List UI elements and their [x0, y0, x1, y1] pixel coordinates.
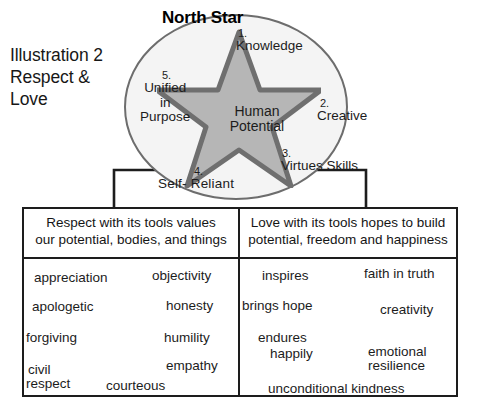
respect-panel-body: appreciation apologetic forgiving civil … [24, 259, 238, 395]
love-panel: Love with its tools hopes to build poten… [240, 209, 456, 395]
respect-tag-apologetic: apologetic [32, 300, 94, 314]
star-point-label-1: 1. Knowledge [236, 28, 303, 54]
love-tag-inspires: inspires [262, 269, 309, 283]
love-tag-faith-in-truth: faith in truth [364, 267, 435, 281]
star-point-text-5a: Unified [144, 80, 186, 95]
north-star-title: North Star [162, 8, 243, 28]
star-point-label-3: 3. Virtues Skills [281, 148, 358, 174]
respect-tag-honesty: honesty [166, 299, 213, 313]
respect-tag-courteous: courteous [106, 379, 165, 393]
love-heading-line-1: Love with its tools hopes to build [251, 215, 445, 230]
love-tag-brings-hope: brings hope [242, 299, 313, 313]
star-point-text-4: Self- Reliant [158, 176, 234, 191]
respect-heading-line-2: our potential, bodies, and things [26, 232, 236, 249]
love-tag-endures: endures [258, 331, 307, 345]
respect-tag-forgiving: forgiving [26, 331, 77, 345]
love-tag-happily: happily [270, 347, 313, 361]
respect-panel-heading: Respect with its tools values our potent… [24, 209, 238, 259]
star-point-text-2: Creative [317, 108, 367, 123]
love-heading-line-2: potential, freedom and happiness [242, 232, 454, 249]
tools-panels: Respect with its tools values our potent… [22, 207, 458, 397]
respect-tag-humility: humility [164, 331, 210, 345]
star-point-label-4: 4. Self- Reliant [158, 166, 234, 192]
love-panel-heading: Love with its tools hopes to build poten… [240, 209, 456, 259]
star-center-line-1: Human [214, 104, 300, 119]
respect-tag-appreciation: appreciation [34, 271, 108, 285]
respect-tag-civil: civil [28, 363, 51, 377]
respect-tag-respect: respect [26, 377, 70, 391]
star-point-text-1: Knowledge [236, 38, 303, 53]
respect-heading-line-1: Respect with its tools values [46, 215, 216, 230]
star-center-line-2: Potential [214, 119, 300, 134]
star-point-label-5: 5. Unified in Purpose [140, 70, 190, 125]
love-tag-emotional-resilience: emotionalresilience [368, 345, 427, 373]
love-tag-emotional-line-2: resilience [368, 359, 427, 373]
star-point-label-2: 2. Creative [317, 98, 367, 124]
respect-tag-empathy: empathy [166, 359, 218, 373]
respect-panel: Respect with its tools values our potent… [24, 209, 240, 395]
love-tag-unconditional-kindness: unconditional kindness [268, 382, 405, 396]
love-tag-creativity: creativity [380, 303, 433, 317]
respect-tag-objectivity: objectivity [152, 269, 211, 283]
star-point-text-3a: Virtues [281, 158, 323, 173]
star-center-label: Human Potential [214, 104, 300, 134]
love-tag-emotional-line-1: emotional [368, 344, 427, 359]
star-point-text-5c: Purpose [140, 110, 190, 125]
love-panel-body: inspires brings hope endures happily unc… [240, 259, 456, 395]
star-point-text-5b: in [140, 96, 190, 111]
star-point-text-3b: Skills [327, 158, 359, 173]
illustration-canvas: Illustration 2 Respect & Love North Star… [0, 0, 479, 417]
